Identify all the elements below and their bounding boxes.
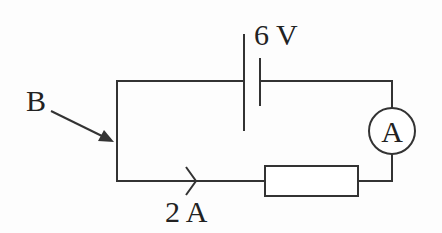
point-b-label: B — [26, 84, 46, 117]
circuit-svg: A 6 V 2 A B — [0, 0, 442, 233]
ammeter-symbol: A — [369, 108, 415, 154]
ammeter-label: A — [381, 115, 403, 148]
battery-voltage-label: 6 V — [254, 18, 298, 51]
current-label: 2 A — [165, 195, 208, 228]
circuit-diagram: A 6 V 2 A B — [0, 0, 442, 233]
resistor-symbol — [265, 166, 358, 196]
pointer-line — [51, 111, 104, 137]
point-b-pointer — [51, 111, 114, 142]
